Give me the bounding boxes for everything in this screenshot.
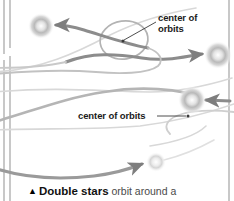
label-top-line1: center of	[158, 12, 197, 23]
orbit-tail-top-left	[0, 48, 161, 74]
orbit-arrow-to-right-upper-star	[66, 54, 202, 62]
figure-caption: ▲Double stars orbit around a	[28, 185, 228, 198]
caption-rest-text: orbit around a	[109, 185, 177, 197]
double-stars-figure: center of orbits center of orbits ▲Doubl…	[0, 0, 234, 201]
star-right-upper	[204, 41, 232, 69]
star-top-left	[28, 13, 54, 39]
orbit-arrow-to-top-left-star	[56, 25, 148, 48]
star-bottom	[146, 152, 166, 172]
orbit-arrow-to-bottom-star	[0, 164, 142, 178]
label-top-line2: orbits	[158, 23, 197, 34]
label-center-of-orbits-top: center of orbits	[158, 12, 197, 34]
arrow-into-right-mid-star	[206, 100, 230, 101]
caption-lead-text: Double stars	[39, 185, 109, 197]
label-center-of-orbits-middle: center of orbits	[78, 110, 146, 121]
star-right-mid	[178, 86, 206, 114]
caption-triangle-icon: ▲	[28, 186, 37, 196]
orbit-tail-bottom	[164, 140, 214, 160]
diagram-canvas	[0, 0, 234, 201]
